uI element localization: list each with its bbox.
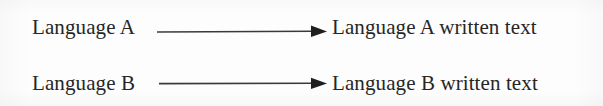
target-label-language-a-written-text: Language A written text [332,5,537,49]
source-label-language-b: Language B [32,61,135,105]
arrow-right-icon-row-a [155,16,329,38]
diagram-row-language-b: Language B Language B written text [0,61,603,105]
diagram-row-language-a: Language A Language A written text [0,5,603,49]
source-label-language-a: Language A [32,5,135,49]
language-mapping-diagram: Language A Language A written text Langu… [0,0,603,106]
arrow-right-icon-row-b [155,72,329,94]
target-label-language-b-written-text: Language B written text [332,61,538,105]
